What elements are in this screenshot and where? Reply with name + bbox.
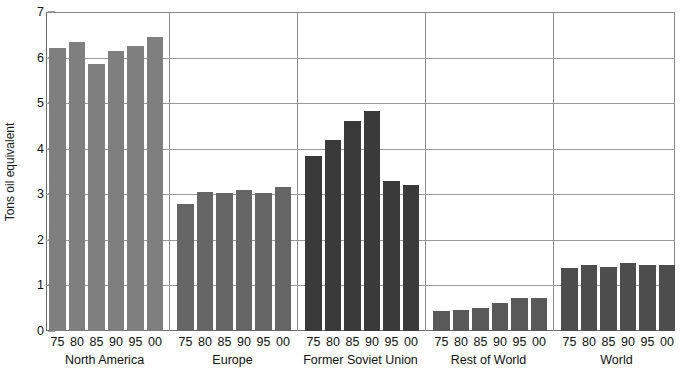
bar [620, 263, 637, 331]
bar [403, 185, 420, 331]
bar [531, 298, 548, 331]
x-tick-label: 95 [256, 335, 270, 349]
y-axis-title: Tons oil equivalent [2, 12, 18, 331]
y-tick-label: 3 [22, 187, 44, 201]
x-tick-label: 90 [109, 335, 123, 349]
x-tick-label: 90 [237, 335, 251, 349]
bar [561, 268, 578, 331]
x-tick-label: 85 [89, 335, 103, 349]
x-tick-label: 00 [404, 335, 418, 349]
x-tick-label: 90 [365, 335, 379, 349]
y-tick-label: 5 [22, 96, 44, 110]
x-tick-label: 90 [621, 335, 635, 349]
x-tick-label: 85 [601, 335, 615, 349]
plot-area [46, 12, 675, 331]
group-label: Europe [212, 353, 252, 367]
x-tick-label: 90 [493, 335, 507, 349]
bar [472, 308, 489, 331]
bar [177, 204, 194, 331]
bar [127, 46, 144, 331]
group-separator [169, 12, 170, 331]
y-tick-label: 0 [22, 324, 44, 338]
bar [275, 187, 292, 331]
plot-border-top [46, 12, 675, 13]
x-tick-label: 95 [640, 335, 654, 349]
group-separator [553, 12, 554, 331]
bar [216, 193, 233, 331]
x-tick-label: 75 [562, 335, 576, 349]
bar [255, 193, 272, 331]
group-label: North America [65, 353, 144, 367]
y-tick-label: 7 [22, 5, 44, 19]
group-label: Former Soviet Union [303, 353, 418, 367]
bar [49, 48, 66, 331]
x-tick-label: 75 [306, 335, 320, 349]
group-separator [425, 12, 426, 331]
x-axis-labels: 758085909500North America758085909500Eur… [46, 331, 675, 369]
y-tick-label: 2 [22, 233, 44, 247]
group-label: World [600, 353, 632, 367]
bar [453, 310, 470, 331]
bar [659, 265, 676, 331]
x-tick-label: 00 [148, 335, 162, 349]
y-tick-label: 4 [22, 142, 44, 156]
bar [600, 267, 617, 331]
x-tick-label: 80 [582, 335, 596, 349]
x-tick-label: 80 [326, 335, 340, 349]
bar [511, 298, 528, 331]
y-axis-title-label: Tons oil equivalent [3, 122, 17, 221]
x-tick-label: 00 [660, 335, 674, 349]
x-tick-label: 80 [454, 335, 468, 349]
bar [325, 140, 342, 331]
x-tick-label: 80 [70, 335, 84, 349]
bar [197, 192, 214, 331]
y-axis-line [46, 12, 47, 331]
x-tick-label: 75 [434, 335, 448, 349]
bar [344, 121, 361, 331]
y-tick-label: 1 [22, 278, 44, 292]
group-separator [297, 12, 298, 331]
bar [69, 42, 86, 331]
bar [108, 51, 125, 331]
bar [581, 265, 598, 331]
bar [236, 190, 253, 331]
x-tick-label: 95 [512, 335, 526, 349]
bar [364, 111, 381, 331]
bar [433, 311, 450, 331]
bar [147, 37, 164, 331]
bar [492, 303, 509, 331]
y-axis-ticks: 01234567 [20, 0, 44, 369]
bar [305, 156, 322, 331]
x-tick-label: 85 [473, 335, 487, 349]
bar [639, 265, 656, 331]
x-tick-label: 00 [276, 335, 290, 349]
group-label: Rest of World [451, 353, 527, 367]
x-tick-label: 00 [532, 335, 546, 349]
x-tick-label: 85 [345, 335, 359, 349]
x-tick-label: 75 [178, 335, 192, 349]
x-tick-label: 75 [50, 335, 64, 349]
bar [383, 181, 400, 331]
bar [88, 64, 105, 331]
x-tick-label: 95 [384, 335, 398, 349]
x-tick-label: 95 [128, 335, 142, 349]
y-tick-label: 6 [22, 51, 44, 65]
x-tick-label: 80 [198, 335, 212, 349]
x-tick-label: 85 [217, 335, 231, 349]
bar-chart: Tons oil equivalent 01234567 75808590950… [0, 0, 681, 369]
